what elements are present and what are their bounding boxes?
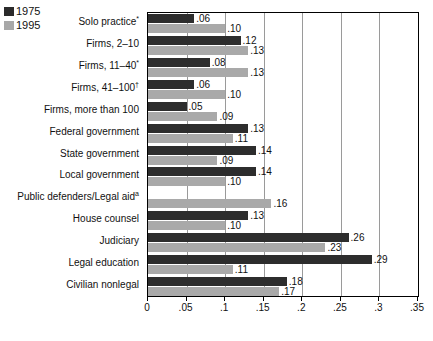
bar-1975-4	[148, 102, 187, 111]
x-tick-label: .2	[297, 303, 305, 313]
bar-value-label: .13	[250, 124, 264, 134]
category-label-11: Legal education	[68, 257, 139, 268]
category-label-4: Firms, more than 100	[44, 104, 139, 115]
bar-value-label: .17	[281, 287, 295, 297]
bar-value-label: .09	[219, 156, 233, 166]
bar-value-label: .13	[250, 68, 264, 78]
bar-group: .06.10	[148, 80, 418, 102]
category-label-10: Judiciary	[100, 235, 139, 246]
bar-value-label: .16	[273, 199, 287, 209]
x-tick-label: 0	[144, 303, 150, 313]
bar-1975-5	[148, 124, 248, 133]
bar-group: .06.10	[148, 14, 418, 36]
x-tick	[224, 297, 225, 301]
bar-1995-2	[148, 68, 248, 77]
bar-group: .12.13	[148, 36, 418, 58]
category-label-2: Firms, 11–40*	[79, 60, 139, 71]
bar-1975-10	[148, 233, 349, 242]
bar-value-label: .13	[250, 211, 264, 221]
category-label-8: Public defenders/Legal aida	[17, 191, 139, 202]
bar-group: .14.09	[148, 146, 418, 168]
x-tick-label: .15	[256, 303, 270, 313]
category-label-9: House counsel	[73, 213, 139, 224]
x-tick-label: .1	[220, 303, 228, 313]
bar-1995-3	[148, 90, 225, 99]
bar-value-label: .29	[374, 255, 388, 265]
bar-1975-11	[148, 255, 372, 264]
category-label-1: Firms, 2–10	[86, 38, 139, 49]
bar-group: .05.09	[148, 102, 418, 124]
bar-value-label: .05	[189, 102, 203, 112]
x-tick	[417, 297, 418, 301]
bar-group: .08.13	[148, 58, 418, 80]
bar-value-label: .10	[227, 90, 241, 100]
x-tick	[186, 297, 187, 301]
bar-1975-1	[148, 36, 241, 45]
bar-1975-6	[148, 146, 256, 155]
bar-1995-12	[148, 287, 279, 296]
bar-1995-11	[148, 265, 233, 274]
bar-value-label: .11	[235, 265, 248, 275]
x-tick	[301, 297, 302, 301]
bar-1995-10	[148, 243, 325, 252]
bar-value-label: .14	[258, 146, 272, 156]
x-axis: 0.05.1.15.2.25.3.35	[147, 297, 419, 327]
x-tick-label: .35	[410, 303, 424, 313]
category-label-6: State government	[60, 148, 139, 159]
x-tick	[340, 297, 341, 301]
category-label-12: Civilian nonlegal	[66, 279, 139, 290]
category-axis-labels: Solo practice*Firms, 2–10Firms, 11–40*Fi…	[0, 12, 143, 297]
bar-group: .18.17	[148, 277, 418, 299]
bar-1975-2	[148, 58, 210, 67]
bar-group: .16	[148, 189, 418, 211]
chart-figure: 1975 1995 Solo practice*Firms, 2–10Firms…	[0, 0, 433, 341]
bar-value-label: .11	[235, 134, 248, 144]
bar-1975-12	[148, 277, 287, 286]
bar-group: .14.10	[148, 167, 418, 189]
bar-1975-7	[148, 167, 256, 176]
bar-value-label: .14	[258, 167, 272, 177]
x-tick	[263, 297, 264, 301]
bar-value-label: .10	[227, 24, 241, 34]
bar-1995-0	[148, 24, 225, 33]
x-tick	[378, 297, 379, 301]
plot-area: .06.10.12.13.08.13.06.10.05.09.13.11.14.…	[147, 12, 419, 297]
bar-1995-6	[148, 156, 217, 165]
category-label-3: Firms, 41–100†	[71, 82, 139, 93]
bar-1995-5	[148, 134, 233, 143]
bar-1995-1	[148, 46, 248, 55]
bar-value-label: .08	[212, 58, 226, 68]
bar-1975-3	[148, 80, 194, 89]
bar-value-label: .06	[196, 80, 210, 90]
x-tick-label: .25	[333, 303, 347, 313]
bar-1995-9	[148, 221, 225, 230]
bar-1975-0	[148, 14, 194, 23]
bar-1995-4	[148, 112, 217, 121]
x-tick-label: .3	[374, 303, 382, 313]
bar-value-label: .10	[227, 177, 241, 187]
bar-1995-8	[148, 199, 271, 208]
bar-1995-7	[148, 177, 225, 186]
bar-value-label: .26	[351, 233, 365, 243]
bar-group: .13.11	[148, 124, 418, 146]
category-label-7: Local government	[60, 169, 140, 180]
bar-value-label: .23	[327, 243, 341, 253]
category-label-0: Solo practice*	[78, 16, 139, 27]
bar-group: .26.23	[148, 233, 418, 255]
bar-value-label: .10	[227, 221, 241, 231]
bar-value-label: .06	[196, 14, 210, 24]
category-label-5: Federal government	[50, 126, 140, 137]
bar-value-label: .13	[250, 46, 264, 56]
x-tick-label: .05	[179, 303, 193, 313]
bar-group: .13.10	[148, 211, 418, 233]
x-tick	[147, 297, 148, 301]
bar-group: .29.11	[148, 255, 418, 277]
bar-value-label: .09	[219, 112, 233, 122]
bar-1975-9	[148, 211, 248, 220]
